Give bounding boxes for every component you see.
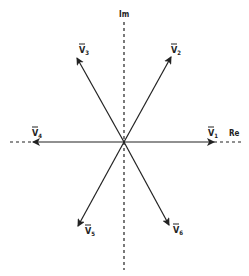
svg-text:V4: V4 [32, 128, 42, 139]
vector-v2-arrow [124, 57, 171, 142]
vector-v5-arrow [78, 142, 124, 226]
vector-v2-label: V2 [171, 44, 181, 56]
vector-v3-arrow [77, 58, 124, 142]
vector-v3-label: V3 [79, 44, 89, 56]
vector-v4-label: V4 [32, 127, 42, 139]
vector-v5-label: V5 [85, 225, 95, 237]
vector-v1-label: V1 [208, 127, 218, 139]
real-axis-label: Re [229, 129, 240, 138]
svg-text:V2: V2 [171, 45, 181, 56]
svg-text:V1: V1 [208, 128, 218, 139]
svg-text:V3: V3 [79, 45, 89, 56]
imaginary-axis-label: Im [119, 10, 129, 19]
phasor-diagram: Im Re V1 V2 V3 V4 V5 V6 [0, 0, 249, 276]
vector-v6-label: V6 [173, 224, 183, 236]
svg-text:V6: V6 [173, 225, 183, 236]
vector-v6-arrow [124, 142, 169, 225]
svg-text:V5: V5 [85, 226, 95, 237]
